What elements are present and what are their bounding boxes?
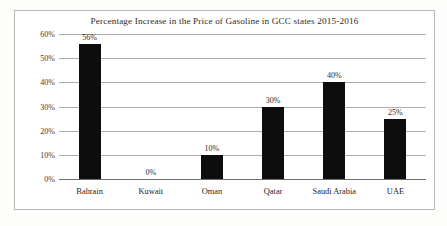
bar-slot: 10% [181, 34, 242, 179]
bar[interactable] [323, 82, 345, 179]
x-axis-category-label: Bahrain [59, 187, 120, 196]
bar-value-label: 25% [388, 108, 403, 117]
chart-frame: Percentage Increase in the Price of Gaso… [14, 10, 435, 210]
bar-value-label: 0% [145, 168, 156, 177]
y-axis-tick-label: 50% [17, 54, 55, 63]
chart-title: Percentage Increase in the Price of Gaso… [15, 16, 434, 26]
bar[interactable] [384, 119, 406, 179]
bar-value-label: 40% [327, 71, 342, 80]
plot-area: 60%50%40%30%20%10%0% 56%0%10%30%40%25% [59, 34, 426, 179]
y-axis-tick-label: 60% [17, 30, 55, 39]
bar-slot: 56% [59, 34, 120, 179]
x-axis-category-label: Qatar [243, 187, 304, 196]
x-axis-category-label: Saudi Arabia [304, 187, 365, 196]
x-axis-labels: BahrainKuwaitOmanQatarSaudi ArabiaUAE [59, 187, 426, 196]
bars-group: 56%0%10%30%40%25% [59, 34, 426, 179]
y-axis-tick-label: 0% [17, 175, 55, 184]
bar[interactable] [262, 107, 284, 180]
bar-value-label: 56% [82, 33, 97, 42]
y-axis-tick-label: 40% [17, 78, 55, 87]
bar-slot: 25% [365, 34, 426, 179]
bar[interactable] [201, 155, 223, 179]
bar-slot: 40% [304, 34, 365, 179]
x-axis-category-label: Oman [181, 187, 242, 196]
bar[interactable] [79, 44, 101, 179]
y-axis-tick-label: 10% [17, 150, 55, 159]
x-axis-category-label: Kuwait [120, 187, 181, 196]
y-axis-tick-label: 30% [17, 102, 55, 111]
x-axis-line [59, 179, 426, 180]
y-axis-tick-label: 20% [17, 126, 55, 135]
bar-slot: 30% [243, 34, 304, 179]
bar-slot: 0% [120, 34, 181, 179]
bar-value-label: 30% [266, 96, 281, 105]
x-axis-category-label: UAE [365, 187, 426, 196]
bar-value-label: 10% [205, 144, 220, 153]
